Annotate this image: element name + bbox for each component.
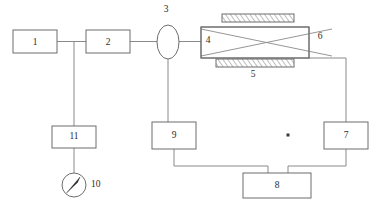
component-1[interactable]: 1 [13, 30, 57, 53]
upper-heating-plate [222, 14, 294, 22]
component-8[interactable]: 8 [243, 173, 311, 198]
connection-lines [57, 42, 346, 174]
component-1-label: 1 [33, 37, 38, 47]
component-2[interactable]: 2 [86, 30, 130, 53]
component-6-label: 6 [318, 31, 323, 41]
component-8-label: 8 [275, 180, 280, 190]
line-7-to-8 [288, 149, 346, 173]
component-5-label: 5 [251, 69, 256, 79]
component-2-label: 2 [106, 37, 111, 47]
reference-dot [287, 134, 290, 137]
component-3-ellipse[interactable] [157, 25, 179, 59]
line-9-to-8 [174, 149, 268, 173]
component-10-label: 10 [91, 179, 101, 189]
schematic-canvas: 1 2 3 4 5 6 [0, 0, 380, 207]
component-9[interactable]: 9 [152, 122, 196, 149]
component-3-label: 3 [164, 4, 169, 14]
component-10-gauge[interactable]: 10 [62, 173, 101, 197]
component-9-label: 9 [172, 130, 177, 140]
line-4-to-7 [309, 58, 346, 122]
lower-heating-plate [216, 59, 294, 67]
component-3-valve[interactable]: 3 [157, 4, 179, 59]
reference-dot-icon [287, 134, 290, 137]
component-7-label: 7 [344, 130, 349, 140]
component-4-reactor[interactable]: 4 5 6 [201, 14, 332, 79]
component-11-label: 11 [69, 131, 78, 141]
component-4-label: 4 [206, 35, 211, 45]
component-7[interactable]: 7 [324, 122, 368, 149]
schematic-diagram: 1 2 3 4 5 6 [0, 0, 380, 207]
component-4-box[interactable] [201, 27, 309, 58]
component-11[interactable]: 11 [52, 126, 96, 148]
